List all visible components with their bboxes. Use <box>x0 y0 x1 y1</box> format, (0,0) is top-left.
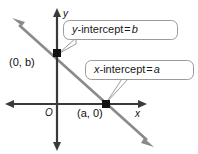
y-axis-arrowhead-top <box>53 8 61 17</box>
x-intercept-rest: -intercept <box>100 63 146 75</box>
x-intercept-callout-label[interactable]: x-intercept=a <box>94 64 160 75</box>
x-intercept-point-label: (a, 0) <box>77 108 103 119</box>
y-intercept-point-marker[interactable] <box>53 49 61 57</box>
y-intercept-equals: = <box>123 23 131 35</box>
y-intercept-callout-label[interactable]: y-intercept=b <box>72 24 138 35</box>
x-axis-arrowhead-left <box>5 100 14 108</box>
y-intercept-point-label: (0, b) <box>9 57 35 68</box>
x-intercept-point-marker[interactable] <box>102 100 110 108</box>
line-arrowhead-upper-left <box>12 18 25 26</box>
x-axis-label: x <box>135 109 140 119</box>
y-intercept-point-label-text: (0, b) <box>9 56 35 68</box>
x-intercept-point-label-text: (a, 0) <box>77 107 103 119</box>
x-intercept-value: a <box>154 63 160 75</box>
x-intercept-equals: = <box>145 63 153 75</box>
intercept-line <box>19 25 147 140</box>
y-intercept-value: b <box>132 23 138 35</box>
intercepts-diagram: y x O (0, b) (a, 0) y-intercept=b x-inte… <box>0 0 198 154</box>
y-axis-arrowhead-bottom <box>53 142 61 151</box>
x-axis-arrowhead-right <box>138 100 147 108</box>
y-intercept-rest: -intercept <box>78 23 124 35</box>
origin-label: O <box>45 108 53 118</box>
x-intercept-callout-tail <box>106 79 128 103</box>
y-axis-label: y <box>63 9 68 19</box>
